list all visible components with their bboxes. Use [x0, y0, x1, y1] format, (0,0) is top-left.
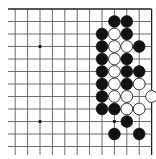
white-stone[interactable]: [109, 53, 121, 65]
star-point-icon: [113, 120, 116, 123]
black-stone[interactable]: [133, 128, 145, 140]
white-stone[interactable]: [133, 103, 145, 115]
white-stone[interactable]: [121, 91, 133, 103]
white-stone[interactable]: [109, 28, 121, 40]
white-stone[interactable]: [146, 91, 156, 103]
black-stone[interactable]: [96, 53, 108, 65]
star-point-icon: [38, 120, 41, 123]
white-stone[interactable]: [109, 41, 121, 53]
white-stone[interactable]: [121, 41, 133, 53]
black-stone[interactable]: [121, 78, 133, 90]
black-stone[interactable]: [109, 128, 121, 140]
black-stone[interactable]: [121, 16, 133, 28]
black-stone[interactable]: [109, 103, 121, 115]
black-stone[interactable]: [96, 41, 108, 53]
black-stone[interactable]: [121, 116, 133, 128]
black-stone[interactable]: [121, 66, 133, 78]
black-stone[interactable]: [133, 66, 145, 78]
black-stone[interactable]: [133, 41, 145, 53]
white-stone[interactable]: [133, 78, 145, 90]
black-stone[interactable]: [96, 103, 108, 115]
go-board[interactable]: [0, 0, 156, 159]
black-stone[interactable]: [121, 28, 133, 40]
star-point-icon: [38, 45, 41, 48]
black-stone[interactable]: [121, 53, 133, 65]
white-stone[interactable]: [121, 103, 133, 115]
black-stone[interactable]: [96, 78, 108, 90]
black-stone[interactable]: [96, 28, 108, 40]
white-stone[interactable]: [109, 66, 121, 78]
black-stone[interactable]: [96, 91, 108, 103]
white-stone[interactable]: [109, 78, 121, 90]
white-stone[interactable]: [109, 91, 121, 103]
black-stone[interactable]: [109, 16, 121, 28]
black-stone[interactable]: [96, 66, 108, 78]
